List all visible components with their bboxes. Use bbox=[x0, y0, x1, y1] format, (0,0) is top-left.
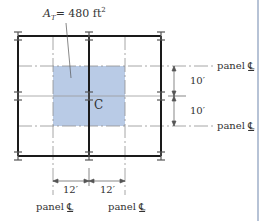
tributary-area-label: AT= 480 ft2 bbox=[43, 7, 106, 22]
centerline-icon: ℄ bbox=[248, 60, 254, 71]
dim-label-bottom: 10′ bbox=[190, 106, 205, 116]
panel-centerline-label-left: panel ℄ bbox=[36, 202, 73, 212]
centerline-icon: ℄ bbox=[248, 120, 254, 131]
area-symbol: A bbox=[43, 7, 51, 20]
page-edge bbox=[257, 0, 259, 221]
column-c-label: C bbox=[94, 99, 103, 111]
tributary-area-diagram: AT= 480 ft2 C 10′ 10′ 12′ 12′ panel ℄ pa… bbox=[0, 0, 261, 221]
dim-label-right: 12′ bbox=[100, 185, 115, 195]
centerline-icon: ℄ bbox=[67, 201, 73, 212]
framing-plan bbox=[0, 0, 261, 221]
centerline-icon: ℄ bbox=[139, 201, 145, 212]
panel-centerline-label-top: panel ℄ bbox=[217, 61, 254, 71]
area-exponent: 2 bbox=[101, 6, 105, 14]
dim-label-top: 10′ bbox=[190, 76, 205, 86]
vertical-dimension bbox=[168, 66, 186, 126]
panel-centerline-label-bottom: panel ℄ bbox=[217, 121, 254, 131]
dim-label-left: 12′ bbox=[63, 185, 78, 195]
area-value: = 480 ft bbox=[56, 7, 102, 20]
panel-centerline-label-right: panel ℄ bbox=[108, 202, 145, 212]
